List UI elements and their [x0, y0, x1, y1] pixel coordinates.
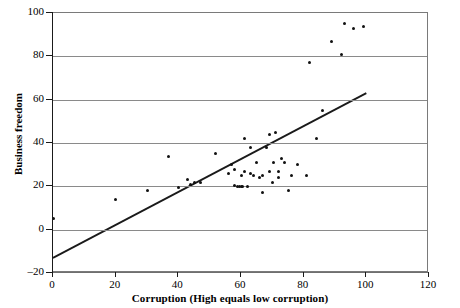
- data-point: [227, 172, 230, 175]
- x-tick-120: [428, 272, 429, 277]
- data-point: [268, 170, 271, 173]
- y-tick-80: [46, 55, 52, 56]
- x-tick-label-100: 100: [345, 279, 385, 290]
- gridline-y-80: [53, 56, 427, 57]
- x-tick-label-120: 120: [408, 279, 448, 290]
- data-point: [271, 181, 274, 184]
- data-point: [340, 53, 343, 56]
- x-tick-label-80: 80: [283, 279, 323, 290]
- y-tick-label-80: 80: [2, 49, 44, 60]
- x-tick-0: [52, 272, 53, 277]
- data-point: [290, 174, 293, 177]
- y-tick-20: [46, 185, 52, 186]
- data-point: [199, 181, 202, 184]
- data-point: [177, 186, 180, 189]
- y-tick-label-100: 100: [2, 6, 44, 17]
- y-tick-label--20: –20: [2, 266, 44, 277]
- x-tick-label-60: 60: [220, 279, 260, 290]
- y-tick-0: [46, 229, 52, 230]
- plot-area: [52, 12, 428, 272]
- data-point: [287, 189, 290, 192]
- x-tick-80: [303, 272, 304, 277]
- data-point: [246, 185, 249, 188]
- y-tick-100: [46, 12, 52, 13]
- y-tick-label-40: 40: [2, 136, 44, 147]
- data-point: [240, 174, 243, 177]
- gridline-y-40: [53, 143, 427, 144]
- data-point: [277, 170, 280, 173]
- y-tick-60: [46, 99, 52, 100]
- data-point: [249, 146, 252, 149]
- data-point: [193, 181, 196, 184]
- data-point: [280, 157, 283, 160]
- data-point: [362, 25, 365, 28]
- gridline-y-0: [53, 230, 427, 231]
- x-tick-60: [240, 272, 241, 277]
- x-tick-label-40: 40: [157, 279, 197, 290]
- data-point: [265, 146, 268, 149]
- x-tick-label-0: 0: [32, 279, 72, 290]
- data-point: [268, 133, 271, 136]
- data-point: [274, 131, 277, 134]
- y-tick-40: [46, 142, 52, 143]
- data-point: [114, 198, 117, 201]
- y-tick-label-20: 20: [2, 179, 44, 190]
- y-axis-line: [52, 12, 53, 273]
- data-point: [243, 137, 246, 140]
- data-point: [315, 137, 318, 140]
- x-axis-title: Corruption (High equals low corruption): [0, 292, 460, 304]
- y-tick-label-60: 60: [2, 93, 44, 104]
- data-point: [146, 189, 149, 192]
- x-tick-40: [177, 272, 178, 277]
- x-tick-label-20: 20: [95, 279, 135, 290]
- y-tick-label-0: 0: [2, 223, 44, 234]
- x-tick-20: [115, 272, 116, 277]
- gridline-y-60: [53, 100, 427, 101]
- data-point: [241, 185, 244, 188]
- data-point: [321, 109, 324, 112]
- x-tick-100: [365, 272, 366, 277]
- data-point: [233, 168, 236, 171]
- data-point: [243, 170, 246, 173]
- scatter-chart-figure: Business freedom Corruption (High equals…: [0, 0, 460, 308]
